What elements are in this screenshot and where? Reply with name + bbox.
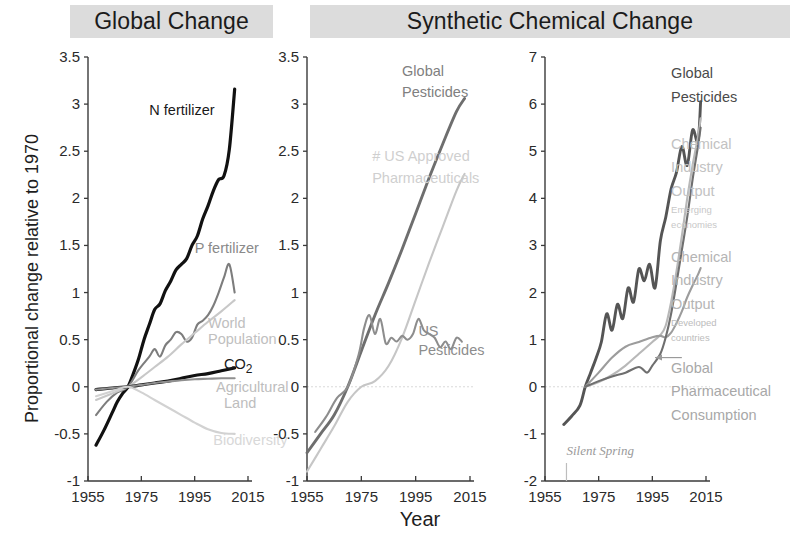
annotation-us: US [418,323,438,339]
series-line-us-pesticides [315,315,462,432]
x-tick-label-0: 2015 [231,488,264,505]
x-tick-label-0: 1955 [71,488,104,505]
x-tick-label-0: 1975 [125,488,158,505]
y-tick-label-0: 3.5 [59,48,80,65]
series-line-us-approved-pharmaceuticals [307,174,465,472]
x-tick-label-1: 1995 [399,488,432,505]
annotation-emerging: Emerging [671,204,712,215]
annotation-population: Population [208,331,277,347]
annotation-world: World [208,315,246,331]
chart-canvas: -1-0.500.511.522.533.51955197519952015N … [0,0,798,538]
annotation-chemical: Chemical [671,249,731,265]
annotation-pesticides: Pesticides [402,84,468,100]
annotation-pharmaceuticals: Pharmaceuticals [372,170,479,186]
x-tick-label-1: 1975 [345,488,378,505]
annotation-industry: Industry [671,272,723,288]
x-tick-label-2: 2015 [689,488,722,505]
y-tick-label-1: -0.5 [273,425,299,442]
annotation-global: Global [402,63,444,79]
annotation-us-approved: # US Approved [372,148,470,164]
y-tick-label-0: 1.5 [59,236,80,253]
annotation-global: Global [671,360,713,376]
x-tick-label-1: 2015 [453,488,486,505]
y-tick-label-2: 0 [529,378,537,395]
y-tick-label-2: -2 [524,472,537,489]
y-tick-label-2: 2 [529,284,537,301]
y-tick-label-0: 2.5 [59,142,80,159]
y-tick-label-0: 0.5 [59,331,80,348]
y-tick-label-1: 3 [291,95,299,112]
annotation-global: Global [671,65,713,81]
y-tick-label-2: 6 [529,95,537,112]
annotation-co2: CO2 [224,356,253,376]
y-tick-label-0: -1 [67,472,80,489]
chart-panel-1: -1-0.500.511.522.533.51955197519952015Gl… [273,48,487,505]
figure-root: Global Change Synthetic Chemical Change … [0,0,798,538]
y-tick-label-1: 2 [291,189,299,206]
y-tick-label-0: 0 [72,378,80,395]
y-tick-label-1: 1.5 [278,236,299,253]
annotation-pesticides: Pesticides [418,342,484,358]
x-tick-label-0: 1995 [178,488,211,505]
y-tick-label-0: 1 [72,284,80,301]
annotation-output: Output [671,183,715,199]
y-tick-label-1: 2.5 [278,142,299,159]
y-tick-label-1: 0 [291,378,299,395]
y-tick-label-0: 2 [72,189,80,206]
annotation-chemical: Chemical [671,136,731,152]
y-tick-label-2: -1 [524,425,537,442]
y-tick-label-1: 1 [291,284,299,301]
x-tick-label-1: 1955 [290,488,323,505]
y-tick-label-2: 7 [529,48,537,65]
y-tick-label-2: 4 [529,189,537,206]
x-tick-label-2: 1975 [582,488,615,505]
annotation-n-fertilizer: N fertilizer [149,102,214,118]
chart-panel-2: -2-1012345671955197519952015GlobalPestic… [524,48,771,505]
y-tick-label-0: 3 [72,95,80,112]
y-tick-label-1: 0.5 [278,331,299,348]
annotation-silent-spring: Silent Spring [566,443,634,458]
annotation-land: Land [224,395,256,411]
y-tick-label-0: -0.5 [54,425,80,442]
y-tick-label-2: 5 [529,142,537,159]
annotation-pesticides: Pesticides [671,89,737,105]
annotation-output: Output [671,296,715,312]
annotation-agricultural: Agricultural [216,379,289,395]
annotation-developed: Developed [671,317,716,328]
x-tick-label-2: 1955 [528,488,561,505]
chart-panel-0: -1-0.500.511.522.533.51955197519952015N … [54,48,288,505]
x-tick-label-2: 1995 [636,488,669,505]
annotation-consumption: Consumption [671,407,756,423]
annotation-countries: countries [671,332,710,343]
y-tick-label-1: 3.5 [278,48,299,65]
annotation-economies: economies [671,219,717,230]
annotation-industry: Industry [671,159,723,175]
y-tick-label-2: 1 [529,331,537,348]
annotation-pharmaceutical: Pharmaceutical [671,383,771,399]
y-tick-label-1: -1 [286,472,299,489]
y-tick-label-2: 3 [529,236,537,253]
annotation-p-fertilizer: P fertilizer [195,240,259,256]
